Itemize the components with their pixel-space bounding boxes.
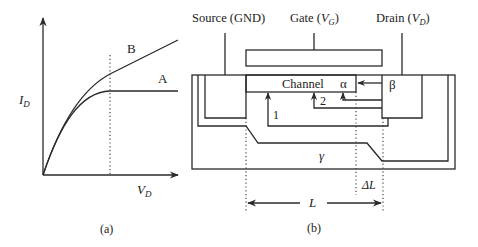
drain-label: Drain (VD)	[376, 11, 430, 27]
beta-label: β	[389, 77, 396, 92]
drain-region	[382, 75, 422, 118]
channel-label: Channel	[282, 77, 324, 91]
gamma-label: γ	[319, 148, 325, 163]
caption-a: (a)	[100, 222, 113, 236]
gate-label: Gate (VG)	[290, 11, 339, 27]
path-2-label: 2	[320, 94, 326, 108]
panel-b-mosfet-cross-section: Source (GND) Gate (VG) Drain (VD) Channe…	[192, 11, 455, 235]
source-region	[205, 75, 246, 118]
y-axis-label: ID	[18, 92, 30, 109]
delta-l-label: ΔL	[361, 178, 376, 192]
path-1-arrow	[268, 93, 388, 126]
caption-b: (b)	[307, 221, 321, 235]
curve-b-label: B	[127, 41, 136, 56]
x-axis-label: VD	[137, 182, 152, 199]
gate-electrode	[246, 50, 382, 66]
panel-a-iv-chart: ID VD B A (a)	[18, 18, 178, 236]
path-alpha-secondary-arrow	[343, 93, 382, 100]
source-label: Source (GND)	[192, 11, 265, 25]
curve-a-label: A	[158, 71, 168, 86]
length-label: L	[308, 195, 316, 210]
path-1-label: 1	[273, 108, 279, 122]
alpha-label: α	[340, 76, 347, 91]
mosfet-figure: ID VD B A (a) Source (GND) Gate (VG) Dra…	[0, 0, 478, 247]
